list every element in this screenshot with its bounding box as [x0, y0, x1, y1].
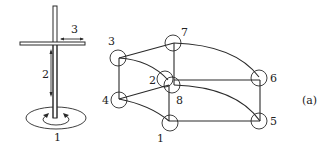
node-2-circle [157, 71, 173, 87]
node-5-label: 5 [270, 115, 277, 128]
joint-3-label: 3 [71, 23, 78, 36]
node-1-circle [162, 115, 178, 131]
joint-3-arrow-icon [60, 38, 84, 41]
edge-3-8-curve [119, 58, 168, 80]
diagram-canvas: 3 2 1 [0, 0, 331, 150]
joint-1-label: 1 [54, 131, 61, 144]
diagram-figure: 3 2 1 [0, 0, 331, 150]
mechanism-sketch: 3 2 1 [20, 6, 86, 144]
joint-2-arrow-icon [50, 49, 53, 97]
edge-7-6-curve [174, 43, 259, 77]
node-6-label: 6 [270, 72, 277, 85]
joint-graph: 3 7 2 8 4 1 6 5 [102, 26, 277, 145]
panel-label: (a) [302, 94, 317, 107]
node-2-label: 2 [149, 74, 156, 87]
joint-2-label: 2 [42, 68, 49, 81]
node-8-label: 8 [176, 94, 183, 107]
node-6-circle [251, 70, 267, 86]
vertical-pole [53, 6, 57, 118]
horizontal-arm [20, 42, 85, 45]
node-7-label: 7 [181, 26, 188, 39]
edge-8-5-curve [174, 85, 260, 121]
node-1-label: 1 [157, 132, 164, 145]
node-4-label: 4 [102, 94, 109, 107]
node-3-label: 3 [108, 35, 115, 48]
